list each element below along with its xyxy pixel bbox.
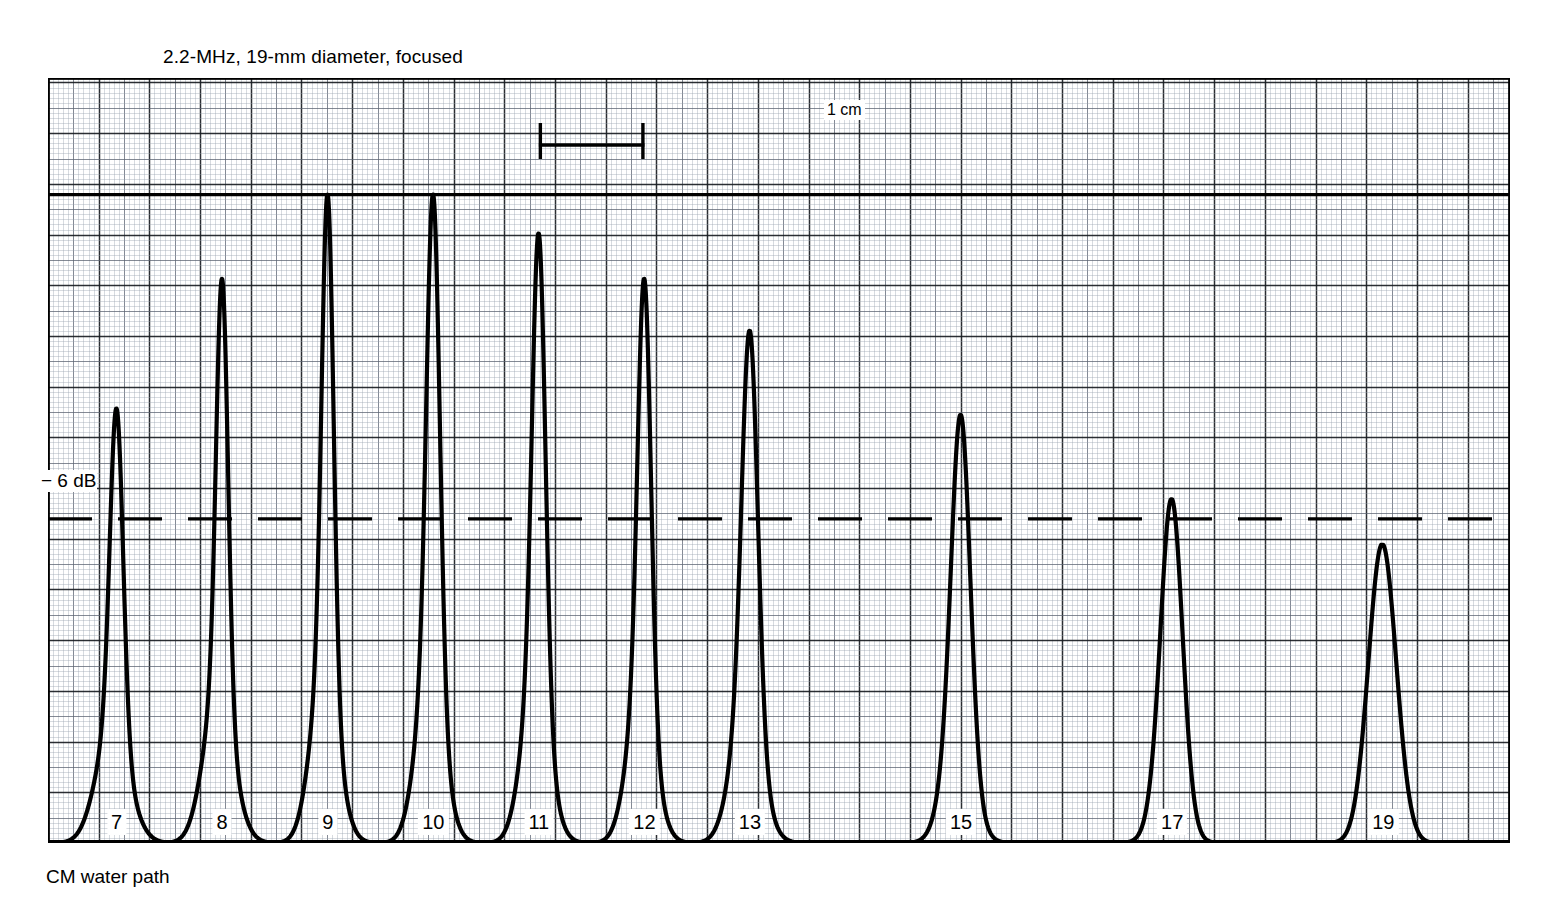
x-axis-title: CM water path bbox=[46, 866, 170, 888]
x-tick-label-13: 13 bbox=[735, 809, 765, 835]
plot-area bbox=[48, 78, 1510, 843]
x-tick-label-11: 11 bbox=[524, 809, 553, 835]
x-tick-label-19: 19 bbox=[1368, 809, 1398, 835]
ultrasound-beam-profile-figure: 2.2-MHz, 19-mm diameter, focused − 6 dB … bbox=[0, 0, 1546, 919]
minus-6-db-label: − 6 dB bbox=[40, 470, 97, 492]
reference-lines-overlay bbox=[48, 78, 1510, 843]
chart-title: 2.2-MHz, 19-mm diameter, focused bbox=[163, 46, 463, 68]
scalebar-label: 1 cm bbox=[824, 100, 865, 120]
x-tick-label-10: 10 bbox=[418, 809, 448, 835]
x-tick-label-7: 7 bbox=[107, 809, 126, 835]
x-tick-label-9: 9 bbox=[318, 809, 337, 835]
x-axis-tick-labels: 78910111213151719 bbox=[48, 806, 1510, 846]
x-tick-label-8: 8 bbox=[213, 809, 232, 835]
x-tick-label-15: 15 bbox=[946, 809, 976, 835]
x-tick-label-12: 12 bbox=[629, 809, 659, 835]
x-tick-label-17: 17 bbox=[1157, 809, 1187, 835]
